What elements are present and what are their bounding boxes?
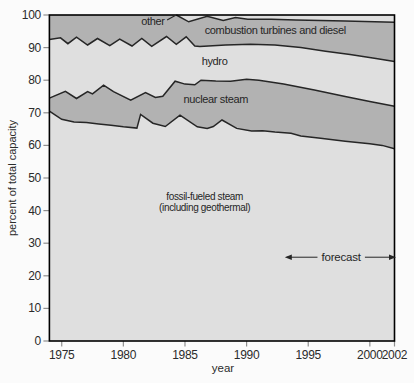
band-label-hydro: hydro bbox=[202, 55, 228, 67]
band-label-other: other bbox=[141, 15, 165, 27]
y-tick-label: 20 bbox=[28, 269, 41, 283]
band-label-combustion: combustion turbines and diesel bbox=[205, 24, 346, 36]
x-tick-label: 1995 bbox=[295, 348, 321, 362]
y-tick-label: 10 bbox=[28, 301, 41, 315]
x-tick-label: 2002 bbox=[382, 348, 408, 362]
y-tick-label: 80 bbox=[28, 73, 41, 87]
x-tick-label: 1975 bbox=[49, 348, 75, 362]
band-label-nuclear: nuclear steam bbox=[184, 93, 249, 105]
forecast-label: forecast bbox=[322, 251, 362, 263]
y-tick-label: 70 bbox=[28, 106, 41, 120]
y-tick-label: 0 bbox=[35, 334, 42, 348]
x-tick-label: 2000 bbox=[357, 348, 383, 362]
y-axis-label: percent of total capacity bbox=[6, 15, 20, 341]
y-tick-label: 50 bbox=[28, 171, 41, 185]
band-label-fossil-2: (including geothermal) bbox=[159, 202, 250, 213]
y-tick-label: 100 bbox=[22, 8, 42, 22]
figure: 0102030405060708090100197519801985199019… bbox=[0, 0, 414, 383]
y-tick-label: 90 bbox=[28, 41, 41, 55]
x-tick-label: 1980 bbox=[111, 348, 137, 362]
band-label-fossil-1: fossil-fueled steam bbox=[166, 191, 243, 202]
stacked-area-chart: 0102030405060708090100197519801985199019… bbox=[0, 0, 414, 383]
y-tick-label: 60 bbox=[28, 138, 41, 152]
y-tick-label: 40 bbox=[28, 204, 41, 218]
x-axis-label: year bbox=[192, 362, 254, 374]
x-tick-label: 1985 bbox=[172, 348, 198, 362]
x-tick-label: 1990 bbox=[234, 348, 260, 362]
y-tick-label: 30 bbox=[28, 236, 41, 250]
